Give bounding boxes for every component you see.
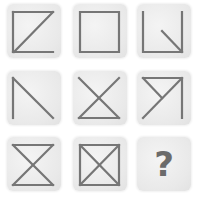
x-with-base-icon (73, 71, 127, 125)
puzzle-tile-2[interactable] (73, 4, 127, 58)
puzzle-tile-8[interactable] (73, 137, 127, 191)
question-mark-icon: ? (137, 137, 191, 191)
square-outline-icon (73, 4, 127, 58)
puzzle-tile-9[interactable]: ? (137, 137, 191, 191)
puzzle-tile-5[interactable] (73, 71, 127, 125)
u-with-diagonal-icon (137, 4, 191, 58)
square-with-x-icon (73, 137, 127, 191)
puzzle-tile-6[interactable] (137, 71, 191, 125)
n-diagonal-icon (7, 71, 61, 125)
arrow-corner-icon (137, 71, 191, 125)
puzzle-tile-7[interactable] (7, 137, 61, 191)
puzzle-tile-1[interactable] (7, 4, 61, 58)
z-shape-icon (7, 4, 61, 58)
puzzle-tile-3[interactable] (137, 4, 191, 58)
puzzle-tile-4[interactable] (7, 71, 61, 125)
hourglass-icon (7, 137, 61, 191)
